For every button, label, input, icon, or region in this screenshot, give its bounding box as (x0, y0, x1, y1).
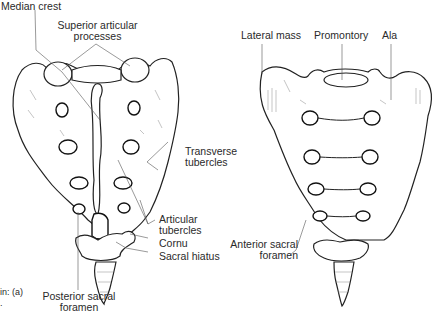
label-lateral-mass: Lateral mass (241, 30, 301, 41)
label-anterior-foramen-line2: foramen (226, 250, 298, 261)
label-anterior-sacral-foramen: Anterior sacral foramen (226, 239, 298, 261)
posterior-sacrum-drawing (13, 58, 179, 304)
label-posterior-sacral-foramen: Posterior sacral foramen (36, 291, 122, 312)
label-ala: Ala (382, 30, 397, 41)
label-transverse-tubercles: Transverse tubercles (185, 146, 237, 168)
caption-fragment: in: (a) . (0, 287, 23, 309)
label-promontory: Promontory (314, 30, 368, 41)
label-articular-tubercles: Articular tubercles (159, 214, 202, 236)
label-posterior-foramen-line2: foramen (36, 302, 122, 312)
caption-line1: in: (a) (0, 287, 23, 298)
anterior-sacrum-drawing (260, 67, 431, 306)
label-cornu: Cornu (159, 238, 188, 249)
label-sacral-hiatus: Sacral hiatus (159, 251, 220, 262)
label-transverse-line2: tubercles (185, 157, 237, 168)
label-articular-line2: tubercles (159, 225, 202, 236)
caption-line2: . (0, 298, 23, 309)
label-superior-articular-line2: processes (50, 31, 145, 42)
label-median-crest: Median crest (1, 1, 61, 12)
label-superior-articular-processes: Superior articular processes (50, 20, 145, 42)
